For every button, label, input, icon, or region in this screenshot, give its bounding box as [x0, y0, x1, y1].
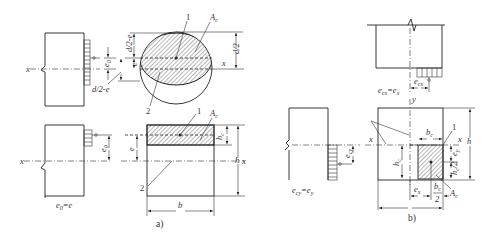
circular-section: x 1 Ac 2 d/2-e e d/2-e — [92, 12, 244, 116]
dim-hc: hc — [214, 133, 225, 140]
stress-block — [417, 68, 442, 77]
dim-bc-half-den: 2 — [435, 194, 440, 204]
axis-label-x-right: x — [241, 156, 246, 166]
dim-ecy: ecy — [342, 149, 353, 158]
top-column-elevation: ecx ecx=ex — [367, 19, 445, 96]
axis-label-y: y — [411, 94, 416, 104]
dim-ex: ex — [414, 184, 421, 195]
column-elevation-circle: x e0 — [25, 33, 116, 106]
dim-e: e — [129, 62, 139, 66]
dim-e: e — [126, 147, 136, 151]
dim-ecx: ecx — [414, 76, 423, 87]
left-column-elevation: ecy ecy=ey — [285, 108, 360, 196]
rectangular-section: x 1 Ac 2 e hc h — [121, 106, 246, 216]
label-Ac: Ac — [449, 188, 458, 199]
label-Ac: Ac — [209, 108, 218, 119]
biaxial-section: y x x 1 bc hc ey h — [365, 94, 475, 210]
caption-ecx-equals-ex: ecx=ex — [378, 85, 400, 96]
dim-ey: ey — [449, 149, 460, 156]
caption-a: a) — [156, 219, 163, 230]
axis-label-x: x — [19, 156, 24, 166]
axis-label-x-left: x — [368, 134, 373, 144]
dim-hc-half: hc/2 — [449, 161, 460, 175]
dim-bc-half: bc — [434, 181, 441, 192]
label-2: 2 — [140, 183, 144, 193]
label-1: 1 — [186, 12, 190, 22]
label-1: 1 — [452, 122, 456, 132]
dim-e0: e0 — [98, 145, 109, 152]
axis-label-x-right: x — [457, 134, 462, 144]
dim-h: h — [235, 155, 239, 165]
axis-label-x-right: x — [221, 58, 226, 68]
dim-d2-minus-e: d/2-e — [124, 34, 134, 52]
dim-b: b — [178, 200, 182, 210]
label-1: 1 — [197, 106, 201, 116]
structural-section-diagram: x e0 x 1 Ac 2 — [0, 0, 495, 237]
panel-b: ecx ecx=ex ecy ecy=ey — [285, 19, 475, 224]
column-elevation-rect: x e0 e0=e — [19, 125, 112, 211]
axis-label-x: x — [25, 64, 30, 74]
dim-hc: hc — [391, 159, 402, 166]
caption-ecy-equals-ey: ecy=ey — [292, 185, 314, 196]
dim-bc: bc — [426, 127, 433, 138]
caption-b: b) — [408, 213, 416, 224]
label-Ac: Ac — [209, 12, 218, 23]
panel-a: x e0 x 1 Ac 2 — [19, 12, 246, 230]
caption-e0-equals-e: e0=e — [56, 200, 73, 211]
stress-block — [84, 40, 90, 85]
stress-block — [328, 145, 337, 180]
dim-d2: d/2 — [231, 42, 241, 54]
dim-d2-minus-e-left: d/2-e — [92, 84, 110, 94]
label-2: 2 — [146, 106, 150, 116]
dim-h: h — [467, 136, 471, 146]
dim-e0: e0 — [101, 60, 112, 67]
